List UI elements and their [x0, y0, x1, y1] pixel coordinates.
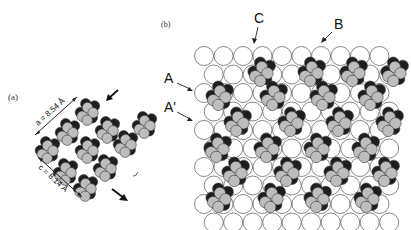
marker-b: B [334, 16, 343, 32]
arrow-icon [177, 83, 193, 91]
arrow-icon [177, 112, 193, 121]
arrow-icon [321, 32, 332, 43]
panel-b-label: (b) [161, 20, 171, 29]
molecular-packing-figure: (a) a = 8.54 Å c = 8.14 Å (b) [0, 0, 411, 230]
panel-b: (b) C B A A' [161, 10, 408, 230]
panel-a-label: (a) [8, 92, 18, 102]
arrow-icon [112, 189, 128, 201]
marker-a-prime: A' [164, 99, 176, 115]
arrow-icon [106, 90, 118, 101]
marker-c: C [254, 10, 264, 26]
marker-a: A [164, 70, 174, 86]
arrow-icon [252, 27, 258, 44]
curved-arrow-icon [133, 172, 138, 176]
panel-a: (a) a = 8.54 Å c = 8.14 Å [8, 90, 157, 201]
